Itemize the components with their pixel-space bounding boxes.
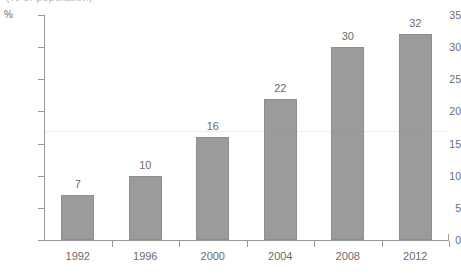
x-axis-category-label: 2012 xyxy=(403,250,427,262)
y-axis-tick-label: 35 xyxy=(427,9,461,21)
bar-value-label: 30 xyxy=(342,30,354,42)
plot-area: % 05101520253035 71016223032 19921996200… xyxy=(0,0,461,275)
x-axis-category-label: 2004 xyxy=(268,250,292,262)
y-axis-tick-label: 30 xyxy=(427,41,461,53)
chart-screenshot: (% of population) % 05101520253035 71016… xyxy=(0,0,461,275)
y-axis-line xyxy=(44,15,45,241)
bar xyxy=(61,195,94,240)
bar xyxy=(196,137,229,240)
x-axis-tick-mark xyxy=(112,241,113,247)
x-axis-category-label: 2008 xyxy=(336,250,360,262)
y-axis-tick-label: 0 xyxy=(427,234,461,246)
y-axis-tick-mark xyxy=(38,240,44,241)
y-axis-tick-mark xyxy=(38,79,44,80)
bar xyxy=(331,47,364,240)
x-axis-tick-mark xyxy=(314,241,315,247)
x-axis-category-label: 1996 xyxy=(133,250,157,262)
bar xyxy=(264,99,297,240)
x-axis-category-label: 1992 xyxy=(66,250,90,262)
bar xyxy=(129,176,162,240)
y-axis-tick-mark xyxy=(38,144,44,145)
x-axis-tick-mark xyxy=(449,241,450,247)
y-axis-tick-label: 25 xyxy=(427,73,461,85)
y-axis-tick-mark xyxy=(38,15,44,16)
bar-value-label: 32 xyxy=(409,17,421,29)
x-axis-tick-mark xyxy=(247,241,248,247)
y-axis-tick-label: 20 xyxy=(427,105,461,117)
y-axis-unit-label: % xyxy=(4,9,13,20)
bar-value-label: 10 xyxy=(139,159,151,171)
y-axis-tick-mark xyxy=(38,47,44,48)
y-axis-tick-mark xyxy=(38,176,44,177)
y-axis-tick-label: 10 xyxy=(427,170,461,182)
bar xyxy=(399,34,432,240)
x-axis-category-label: 2000 xyxy=(201,250,225,262)
x-axis-tick-mark xyxy=(179,241,180,247)
y-axis-tick-label: 15 xyxy=(427,138,461,150)
bar-value-label: 7 xyxy=(75,178,81,190)
bar-value-label: 22 xyxy=(274,82,286,94)
scan-artifact xyxy=(44,131,449,132)
y-axis-tick-label: 5 xyxy=(427,202,461,214)
y-axis-tick-mark xyxy=(38,111,44,112)
y-axis-tick-mark xyxy=(38,208,44,209)
x-axis-tick-mark xyxy=(382,241,383,247)
